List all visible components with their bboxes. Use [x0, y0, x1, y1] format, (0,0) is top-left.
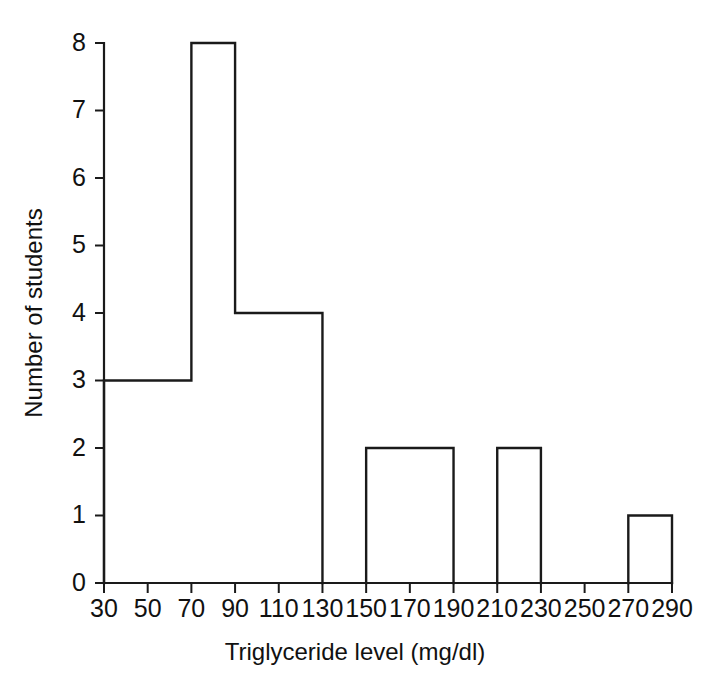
y-tick-label: 8: [72, 28, 86, 56]
x-tick-label: 250: [564, 594, 606, 622]
x-tick-label: 50: [134, 594, 162, 622]
x-tick-label: 30: [90, 594, 118, 622]
x-axis-tick-labels: 30507090110130150170190210230250270290: [90, 594, 693, 622]
x-tick-label: 230: [520, 594, 562, 622]
x-tick-label: 70: [177, 594, 205, 622]
y-tick-label: 3: [72, 365, 86, 393]
y-axis-tick-labels: 012345678: [72, 28, 86, 596]
y-tick-label: 2: [72, 433, 86, 461]
chart-canvas: 012345678 305070901101301501701902102302…: [0, 0, 702, 700]
x-tick-label: 210: [476, 594, 518, 622]
y-axis-title: Number of students: [20, 208, 47, 417]
x-tick-label: 150: [345, 594, 387, 622]
y-tick-label: 1: [72, 500, 86, 528]
x-tick-label: 130: [302, 594, 344, 622]
y-tick-label: 7: [72, 95, 86, 123]
y-tick-label: 6: [72, 163, 86, 191]
x-tick-label: 90: [221, 594, 249, 622]
x-tick-label: 110: [259, 594, 299, 622]
y-tick-label: 5: [72, 230, 86, 258]
x-tick-label: 290: [651, 594, 693, 622]
histogram-chart: 012345678 305070901101301501701902102302…: [0, 0, 702, 700]
x-tick-label: 270: [607, 594, 649, 622]
x-axis-title: Triglyceride level (mg/dl): [225, 638, 486, 665]
y-tick-label: 0: [72, 568, 86, 596]
x-tick-label: 190: [433, 594, 475, 622]
y-tick-label: 4: [72, 298, 86, 326]
x-tick-label: 170: [389, 594, 431, 622]
